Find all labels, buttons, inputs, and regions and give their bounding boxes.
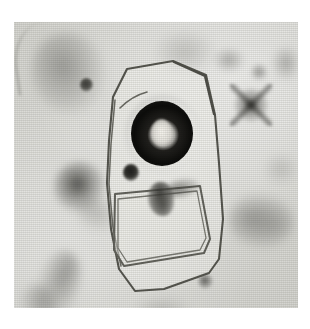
plate-crosshatch-texture	[14, 22, 298, 308]
figure-page	[0, 0, 310, 329]
photomicrograph-plate	[14, 22, 298, 308]
